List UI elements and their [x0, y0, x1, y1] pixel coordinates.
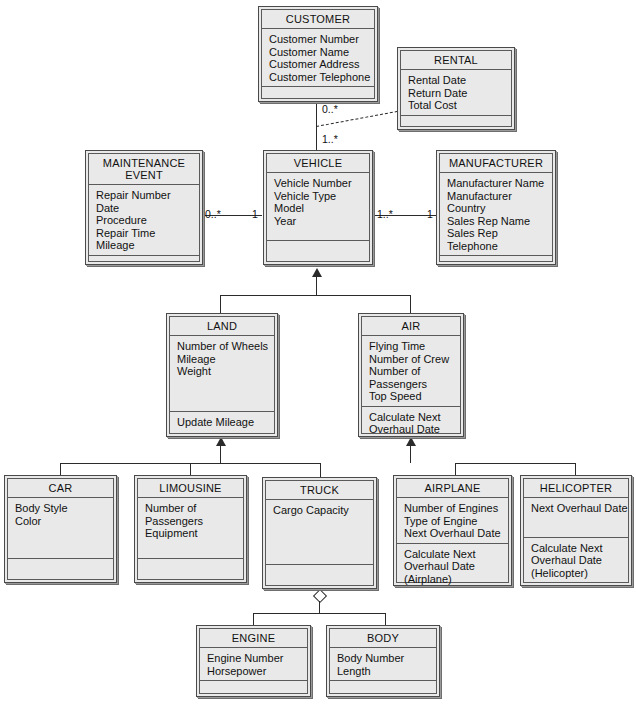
class-attributes-vehicle: Vehicle Number Vehicle Type Model Year [267, 173, 369, 240]
class-box-engine[interactable]: ENGINE Engine Number Horsepower [196, 625, 311, 697]
class-box-car[interactable]: CAR Body Style Color [4, 475, 117, 583]
class-operations-vehicle [267, 240, 369, 261]
class-operations-helicopter: Calculate Next Overhaul Date (Helicopter… [524, 537, 628, 583]
class-operations-maintenance-event [89, 255, 199, 276]
class-name-customer: CUSTOMER [262, 10, 374, 29]
class-box-maintenance-event[interactable]: MAINTENANCE EVENT Repair Number Date Pro… [85, 150, 203, 265]
class-attributes-maintenance-event: Repair Number Date Procedure Repair Time… [89, 185, 199, 255]
class-box-rental[interactable]: RENTAL Rental Date Return Date Total Cos… [397, 47, 515, 130]
class-box-vehicle[interactable]: VEHICLE Vehicle Number Vehicle Type Mode… [263, 150, 373, 265]
class-operations-land: Update Mileage [170, 411, 274, 433]
class-operations-air: Calculate Next Overhaul Date [362, 406, 460, 434]
class-name-limousine: LIMOUSINE [138, 479, 243, 498]
class-name-land: LAND [170, 317, 274, 336]
class-attributes-customer: Customer Number Customer Name Customer A… [262, 29, 374, 86]
class-name-body: BODY [330, 629, 436, 648]
generalization-drop-limousine [190, 463, 191, 475]
class-attributes-manufacturer: Manufacturer Name Manufacturer Country S… [440, 173, 552, 255]
class-operations-rental [401, 115, 511, 136]
class-box-helicopter[interactable]: HELICOPTER Next Overhaul Date Calculate … [520, 475, 632, 586]
class-box-manufacturer[interactable]: MANUFACTURER Manufacturer Name Manufactu… [436, 150, 556, 265]
class-name-vehicle: VEHICLE [267, 154, 369, 173]
multiplicity-vehicle-to-maintenance: 1 [252, 209, 258, 220]
class-operations-body [330, 680, 436, 701]
class-name-engine: ENGINE [200, 629, 307, 648]
uml-diagram-canvas: 0..* 1..* 0..* 1 1..* 1 CUSTOMER Custome… [0, 0, 636, 705]
generalization-arrow-land [216, 437, 226, 446]
class-box-land[interactable]: LAND Number of Wheels Mileage Weight Upd… [166, 313, 278, 437]
class-box-customer[interactable]: CUSTOMER Customer Number Customer Name C… [258, 6, 378, 102]
generalization-stem-land [220, 446, 221, 463]
generalization-stem-air [410, 446, 411, 463]
class-box-body[interactable]: BODY Body Number Length [326, 625, 440, 697]
generalization-bar-air [455, 463, 575, 464]
generalization-drop-car [60, 463, 61, 475]
generalization-drop-helicopter [575, 463, 576, 475]
aggregation-stem-lower [319, 601, 320, 613]
multiplicity-maintenance-to-vehicle: 0..* [205, 209, 221, 220]
class-attributes-land: Number of Wheels Mileage Weight [170, 336, 274, 411]
class-name-air: AIR [362, 317, 460, 336]
class-attributes-limousine: Number of Passengers Equipment [138, 498, 243, 558]
generalization-drop-truck [320, 463, 321, 477]
class-box-air[interactable]: AIR Flying Time Number of Crew Number of… [358, 313, 464, 437]
generalization-arrow-vehicle [312, 268, 322, 277]
class-attributes-rental: Rental Date Return Date Total Cost [401, 70, 511, 115]
class-operations-manufacturer [440, 255, 552, 276]
class-attributes-engine: Engine Number Horsepower [200, 648, 307, 680]
aggregation-bar [253, 613, 385, 614]
class-box-airplane[interactable]: AIRPLANE Number of Engines Type of Engin… [393, 475, 512, 586]
aggregation-drop-engine [253, 613, 254, 625]
class-operations-limousine [138, 558, 243, 579]
multiplicity-manufacturer-to-vehicle: 1 [427, 209, 433, 220]
class-name-maintenance-event: MAINTENANCE EVENT [89, 154, 199, 185]
class-attributes-air: Flying Time Number of Crew Number of Pas… [362, 336, 460, 406]
class-operations-airplane: Calculate Next Overhaul Date (Airplane) [397, 543, 508, 583]
multiplicity-vehicle-to-manufacturer: 1..* [377, 209, 393, 220]
class-attributes-car: Body Style Color [8, 498, 113, 558]
class-name-helicopter: HELICOPTER [524, 479, 628, 498]
generalization-bar-vehicle [220, 295, 410, 296]
class-name-manufacturer: MANUFACTURER [440, 154, 552, 173]
class-operations-engine [200, 680, 307, 701]
multiplicity-vehicle-to-customer: 1..* [322, 134, 338, 145]
class-attributes-truck: Cargo Capacity [266, 500, 373, 564]
aggregation-drop-body [385, 613, 386, 625]
class-name-car: CAR [8, 479, 113, 498]
generalization-drop-airplane [455, 463, 456, 475]
class-name-truck: TRUCK [266, 481, 373, 500]
aggregation-diamond [313, 589, 327, 603]
class-box-truck[interactable]: TRUCK Cargo Capacity [262, 477, 377, 589]
class-name-airplane: AIRPLANE [397, 479, 508, 498]
class-attributes-helicopter: Next Overhaul Date [524, 498, 628, 537]
class-attributes-body: Body Number Length [330, 648, 436, 680]
generalization-arrow-air [406, 437, 416, 446]
class-operations-car [8, 558, 113, 579]
class-operations-truck [266, 564, 373, 585]
generalization-drop-land [220, 295, 221, 313]
generalization-drop-air [410, 295, 411, 313]
class-box-limousine[interactable]: LIMOUSINE Number of Passengers Equipment [134, 475, 247, 583]
class-name-rental: RENTAL [401, 51, 511, 70]
generalization-stem-vehicle [316, 277, 317, 295]
class-attributes-airplane: Number of Engines Type of Engine Next Ov… [397, 498, 508, 543]
class-operations-customer [262, 86, 374, 107]
